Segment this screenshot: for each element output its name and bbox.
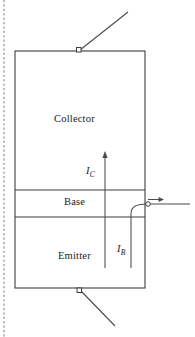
emitter-lead-line (81, 291, 115, 326)
base-terminal-circle-icon (146, 202, 151, 207)
collector-region-label: Collector (54, 113, 95, 124)
collector-lead-line (80, 12, 128, 50)
base-current-label: IB (117, 243, 125, 254)
base-current-subscript: B (121, 248, 126, 257)
emitter-terminal-square-icon (77, 288, 82, 293)
collector-current-label: IC (86, 165, 95, 176)
collector-terminal-square-icon (77, 48, 82, 53)
collector-current-subscript: C (90, 170, 95, 179)
base-current-symbol: I (117, 243, 121, 254)
collector-current-symbol: I (86, 165, 90, 176)
emitter-region-label: Emitter (58, 250, 91, 261)
bjt-cross-section-figure: Collector Base Emitter IC IB (0, 0, 195, 337)
diagram-canvas (0, 0, 195, 337)
base-current-arrowhead-icon (159, 197, 165, 202)
base-region-label: Base (64, 196, 85, 207)
